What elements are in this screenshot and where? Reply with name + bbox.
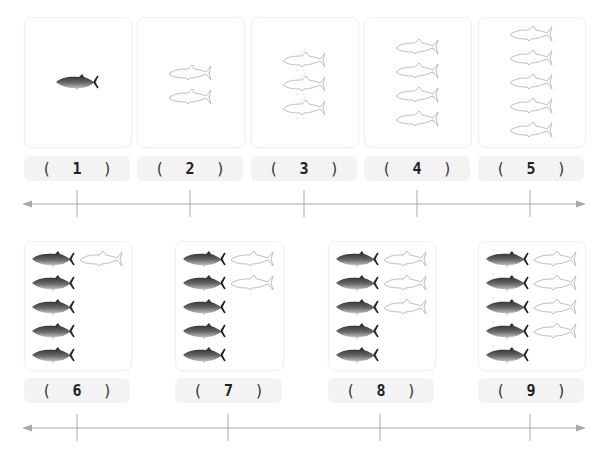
number-line-2 [0,0,601,455]
arrow-left-icon [22,425,32,432]
arrow-right-icon [576,425,586,432]
